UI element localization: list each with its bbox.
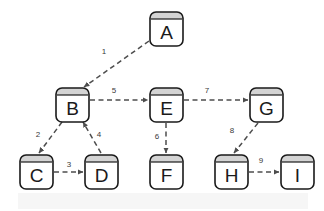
edge-h-to-i[interactable]: 9	[249, 156, 279, 172]
node-b[interactable]: B	[56, 88, 89, 122]
edge-label: 7	[205, 86, 210, 95]
edge-e-to-g[interactable]: 7	[184, 86, 248, 100]
node-i[interactable]: I	[281, 155, 314, 189]
edge-b-to-c[interactable]: 2	[36, 122, 62, 153]
edge-line	[39, 122, 62, 153]
edge-d-to-b[interactable]: 4	[83, 122, 102, 153]
node-header-band	[150, 12, 183, 19]
node-h[interactable]: H	[215, 155, 248, 189]
edge-label: 1	[102, 47, 107, 56]
node-label: B	[66, 98, 79, 119]
node-a[interactable]: A	[150, 12, 183, 46]
node-header-band	[150, 88, 183, 95]
edge-label: 8	[230, 126, 235, 135]
edge-label: 9	[259, 156, 264, 165]
edge-line	[234, 123, 258, 153]
edge-g-to-h[interactable]: 8	[230, 123, 258, 153]
node-label: C	[30, 165, 44, 186]
node-label: F	[161, 165, 173, 186]
node-header-band	[215, 155, 248, 162]
diagram-canvas: 123456789 ABEGCDFHI	[0, 0, 324, 211]
node-f[interactable]: F	[150, 155, 183, 189]
node-d[interactable]: D	[85, 155, 118, 189]
node-label: H	[225, 165, 239, 186]
node-c[interactable]: C	[20, 155, 53, 189]
node-label: E	[160, 98, 173, 119]
edge-b-to-e[interactable]: 5	[90, 86, 148, 100]
node-header-band	[281, 155, 314, 162]
edge-label: 5	[112, 86, 117, 95]
edge-label: 6	[155, 132, 160, 141]
edge-line	[84, 41, 149, 87]
node-label: D	[95, 165, 109, 186]
edge-e-to-f[interactable]: 6	[155, 123, 166, 153]
node-label: G	[259, 98, 274, 119]
nodes-layer: ABEGCDFHI	[20, 12, 314, 189]
node-g[interactable]: G	[250, 88, 283, 122]
node-label: A	[160, 22, 173, 43]
edge-label: 3	[67, 160, 72, 169]
edge-label: 2	[36, 130, 41, 139]
node-header-band	[150, 155, 183, 162]
node-header-band	[20, 155, 53, 162]
node-e[interactable]: E	[150, 88, 183, 122]
edge-label: 4	[97, 130, 102, 139]
node-header-band	[250, 88, 283, 95]
node-header-band	[85, 155, 118, 162]
edge-c-to-d[interactable]: 3	[54, 160, 83, 172]
node-header-band	[56, 88, 89, 95]
node-link-diagram: 123456789 ABEGCDFHI	[0, 0, 324, 211]
node-label: I	[295, 165, 300, 186]
edge-a-to-b[interactable]: 1	[84, 41, 149, 87]
